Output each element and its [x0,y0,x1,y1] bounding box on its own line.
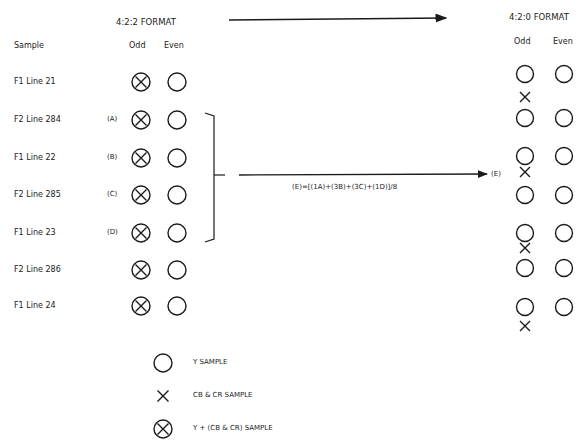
even-y-sample [168,224,186,242]
even-y-sample [168,149,186,167]
even-y-sample [168,261,186,279]
right-even-y-sample [556,148,573,165]
right-even-y-sample [556,66,573,83]
right-even-y-sample [556,110,573,127]
odd-ycbcr-sample-cross [136,77,147,88]
legend-circle-cross-icon-x [158,424,169,435]
odd-ycbcr-sample-cross [136,265,147,276]
odd-ycbcr-sample-cross [136,301,147,312]
right-cbcr-sample [520,167,530,177]
right-cbcr-sample [520,321,530,331]
even-y-sample [168,186,186,204]
legend-cross-icon [158,391,169,402]
legend-circle-icon [154,354,172,372]
format-conversion-arrow [229,18,446,20]
even-y-sample [168,297,186,315]
right-odd-y-sample [517,148,534,165]
right-cbcr-sample [520,243,530,253]
right-odd-y-sample [517,66,534,83]
even-y-sample [168,111,186,129]
right-even-y-sample [556,299,573,316]
right-even-y-sample [556,225,573,242]
right-odd-y-sample [517,187,534,204]
right-odd-y-sample [517,299,534,316]
right-cbcr-sample [520,92,530,102]
grouping-bracket [205,113,214,242]
odd-ycbcr-sample-cross [136,190,147,201]
right-odd-y-sample [517,110,534,127]
odd-ycbcr-sample-cross [136,228,147,239]
odd-ycbcr-sample-cross [136,153,147,164]
right-even-y-sample [556,187,573,204]
right-odd-y-sample [517,225,534,242]
even-y-sample [168,73,186,91]
interpolation-arrow [239,174,487,175]
right-even-y-sample [556,260,573,277]
right-odd-y-sample [517,260,534,277]
odd-ycbcr-sample-cross [136,115,147,126]
diagram-canvas [0,0,588,442]
